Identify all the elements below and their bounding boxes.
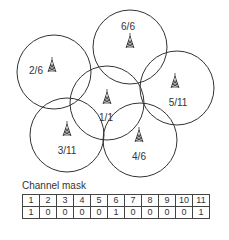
channel-mask-bit-cell: 0 [176,207,193,219]
channel-mask-bit-cell: 0 [40,207,57,219]
channel-number-cell: 1 [23,195,40,207]
channel-mask-value-row: 10000100001 [23,207,210,219]
cell-channel-label: 6/6 [121,21,135,32]
cell-coverage-diagram: 6/62/65/111/13/114/6 [0,0,229,180]
cell-6-6: 6/6 [93,10,167,84]
cell-channel-label: 5/11 [169,97,188,108]
channel-mask-bit-cell: 0 [74,207,91,219]
channel-mask-caption: Channel mask [22,180,86,191]
channel-mask-bit-cell: 0 [159,207,176,219]
cell-2-6: 2/6 [17,35,91,109]
antenna-tower-icon [135,127,143,142]
channel-number-cell: 3 [57,195,74,207]
channel-number-cell: 5 [91,195,108,207]
channel-number-cell: 2 [40,195,57,207]
antenna-tower-icon [126,33,134,48]
channel-mask-bit-cell: 1 [23,207,40,219]
cell-5-11: 5/11 [140,51,214,125]
channel-number-cell: 6 [108,195,125,207]
channel-number-cell: 10 [176,195,193,207]
channel-mask-table: 1234567891011 10000100001 [22,194,210,219]
cell-4-6: 4/6 [103,103,177,177]
antenna-tower-icon [103,89,111,104]
coverage-circle [140,51,214,125]
antenna-tower-icon [171,73,179,88]
channel-number-cell: 7 [125,195,142,207]
channel-number-cell: 8 [142,195,159,207]
channel-mask-bit-cell: 1 [108,207,125,219]
channel-number-cell: 4 [74,195,91,207]
channel-mask-bit-cell: 0 [125,207,142,219]
cell-channel-label: 2/6 [29,65,43,76]
channel-mask-bit-cell: 0 [142,207,159,219]
antenna-tower-icon [63,121,71,136]
channel-number-cell: 11 [193,195,210,207]
cell-3-11: 3/11 [30,98,104,172]
channel-mask-bit-cell: 0 [57,207,74,219]
cell-channel-label: 4/6 [132,151,146,162]
cell-channel-label: 3/11 [58,145,77,156]
channel-number-row: 1234567891011 [23,195,210,207]
channel-mask-bit-cell: 0 [91,207,108,219]
antenna-tower-icon [48,57,56,72]
cell-1-1: 1/1 [70,66,144,140]
channel-mask-bit-cell: 1 [193,207,210,219]
channel-number-cell: 9 [159,195,176,207]
